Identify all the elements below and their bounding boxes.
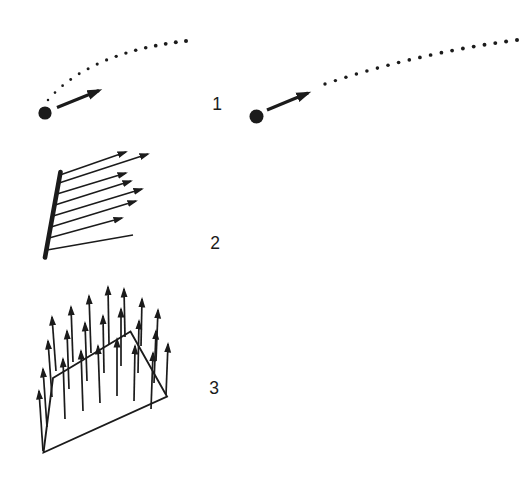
trajectory-dot-icon <box>365 69 369 73</box>
row-label-2: 2 <box>210 233 220 253</box>
trajectory-dot-icon <box>154 44 158 48</box>
trajectory-dot-icon <box>397 61 401 65</box>
field-vector-arrow-icon <box>49 218 122 238</box>
trajectory-dot-icon <box>96 63 99 66</box>
surface-vector-arrow-icon <box>108 287 109 344</box>
trajectory-dot-icon <box>376 66 380 70</box>
trajectory-dot-icon <box>418 56 422 60</box>
trajectory-dot-icon <box>461 47 465 51</box>
trajectory-dot-icon <box>134 49 138 53</box>
surface-vector-arrow-icon <box>63 359 65 419</box>
trajectory-dot-icon <box>493 41 497 45</box>
trajectory-dot-icon <box>344 76 347 79</box>
trajectory-dot-icon <box>450 49 454 53</box>
particle-dot-icon <box>38 106 51 119</box>
trajectory-dot-icon <box>483 43 487 47</box>
surface-vector-arrow-icon <box>166 344 168 395</box>
row-label-3: 3 <box>209 378 219 398</box>
trajectory-dot-icon <box>105 58 108 61</box>
surface-vector-arrow-icon <box>48 341 52 397</box>
trajectory-dot-icon <box>323 82 326 85</box>
surface-vector-arrow-icon <box>39 391 43 451</box>
field-vector-arrow-icon <box>51 201 136 227</box>
surface-parallelogram <box>44 332 168 453</box>
trajectory-figure-right <box>250 38 520 124</box>
trajectory-dot-icon <box>504 40 508 44</box>
trajectory-dot-icon <box>184 39 188 43</box>
trajectory-dot-icon <box>472 45 476 49</box>
surface-vector-arrow-icon <box>138 321 139 373</box>
trajectory-dot-icon <box>355 72 359 76</box>
trajectory-dotted-curve <box>48 41 186 100</box>
trajectory-dot-icon <box>54 91 57 94</box>
surface-vector-arrow-icon <box>134 346 135 401</box>
surface-vector-arrow-icon <box>98 346 100 403</box>
trajectory-dot-icon <box>334 79 337 82</box>
trajectory-dot-icon <box>124 51 127 54</box>
diagram-svg: 1 2 <box>0 0 527 488</box>
trajectory-dot-icon <box>429 53 433 57</box>
trajectory-dot-icon <box>69 78 72 81</box>
surface-vector-arrow-icon <box>141 299 142 346</box>
row-label-1: 1 <box>212 94 222 114</box>
trajectory-dot-icon <box>164 42 168 46</box>
surface-vector-arrow-icon <box>43 369 47 427</box>
surface-vector-arrow-icon <box>85 323 87 381</box>
trajectory-dot-icon <box>440 51 444 55</box>
trajectory-dot-icon <box>87 67 90 70</box>
surface-vector-arrow-icon <box>89 296 91 353</box>
surface-vector-arrow-icon <box>52 317 56 371</box>
surface-vector-arrow-icon <box>71 307 73 362</box>
field-line <box>47 235 133 250</box>
trajectory-dot-icon <box>78 72 81 75</box>
figure-canvas: 1 2 <box>0 0 527 488</box>
surface-vector-arrow-icon <box>151 353 153 409</box>
trajectory-dot-icon <box>174 40 178 44</box>
surface-vector-field-figure <box>39 287 168 453</box>
field-vector-arrow-icon <box>57 173 126 194</box>
trajectory-dot-icon <box>47 99 50 102</box>
velocity-vector-arrow-icon <box>267 93 308 110</box>
line-vector-figure <box>45 152 148 258</box>
trajectory-dot-icon <box>115 55 118 58</box>
trajectory-dotted-curve <box>325 40 517 84</box>
trajectory-dot-icon <box>61 84 64 87</box>
surface-vector-arrow-icon <box>67 331 69 389</box>
field-vector-arrow-icon <box>59 154 148 183</box>
particle-dot-icon <box>250 110 264 124</box>
trajectory-dot-icon <box>407 58 411 62</box>
velocity-vector-arrow-icon <box>57 91 99 108</box>
trajectory-figure-left <box>38 39 188 120</box>
surface-vector-arrow-icon <box>103 316 104 373</box>
trajectory-dot-icon <box>144 46 148 50</box>
trajectory-dot-icon <box>515 38 519 42</box>
field-vector-arrow-icon <box>55 181 131 205</box>
surface-vector-arrow-icon <box>124 289 125 337</box>
trajectory-dot-icon <box>386 63 390 67</box>
